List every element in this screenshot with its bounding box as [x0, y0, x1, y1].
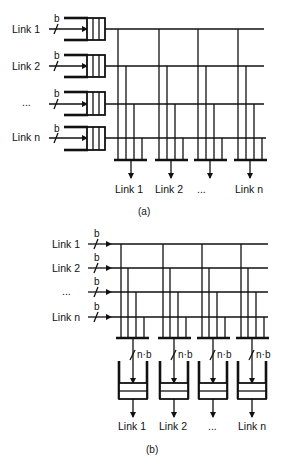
bus-width-label: n·b [217, 349, 232, 360]
panel-caption: (b) [146, 444, 158, 455]
bus-width-label: b [54, 50, 60, 61]
input-queue-icon [87, 92, 105, 115]
bus-width-label: n·b [178, 349, 193, 360]
input-label: Link n [52, 311, 80, 323]
input-queue-icon [87, 18, 105, 40]
output-label: Link 1 [115, 183, 143, 195]
panel-b-input-row-n: Link n b [52, 301, 268, 323]
input-label: ... [22, 96, 31, 108]
panel-a-input-row-1: Link 1 b [12, 13, 264, 40]
panel-b-input-row-2: Link 2 b [52, 252, 268, 274]
input-queue-icon [87, 127, 105, 150]
bus-width-label: n·b [256, 349, 271, 360]
panel-b-output-group-2: n·b [158, 244, 193, 417]
input-label: Link 2 [12, 60, 40, 72]
input-label: ... [62, 285, 71, 297]
panel-a: Link 1 b Link 2 b ... b [12, 13, 267, 217]
panel-a-input-row-3: ... b [22, 88, 264, 115]
input-label: Link 1 [52, 238, 80, 250]
panel-b-input-row-1: Link 1 b [52, 228, 268, 250]
panel-a-input-row-n: Link n b [12, 123, 266, 150]
output-label: Link 1 [118, 420, 146, 432]
output-label: ... [197, 183, 206, 195]
input-label: Link 1 [12, 23, 40, 35]
switch-architecture-diagram: Link 1 b Link 2 b ... b [0, 0, 288, 464]
panel-b-output-group-3: n·b [197, 244, 232, 417]
panel-b-input-row-3: ... b [62, 276, 268, 297]
bus-width-label: b [54, 13, 60, 24]
panel-b-output-group-n: n·b [236, 244, 271, 417]
input-label: Link 2 [52, 262, 80, 274]
bus-width-label: b [94, 252, 100, 263]
output-label: Link n [238, 420, 266, 432]
bus-width-label: b [54, 88, 60, 99]
input-label: Link n [12, 131, 40, 143]
output-label: Link 2 [155, 183, 183, 195]
input-queue-icon [87, 55, 105, 77]
bus-width-label: b [54, 123, 60, 134]
output-label: Link 2 [159, 420, 187, 432]
panel-caption: (a) [138, 206, 150, 217]
bus-width-label: b [94, 276, 100, 287]
bus-width-label: n·b [137, 349, 152, 360]
panel-b: Link 1 b Link 2 b ... b Link n b [52, 228, 271, 455]
panel-b-output-group-1: n·b [116, 244, 152, 417]
output-label: ... [208, 420, 217, 432]
panel-a-input-row-2: Link 2 b [12, 50, 264, 77]
bus-width-label: b [94, 228, 100, 239]
output-label: Link n [235, 183, 263, 195]
bus-width-label: b [94, 301, 100, 312]
